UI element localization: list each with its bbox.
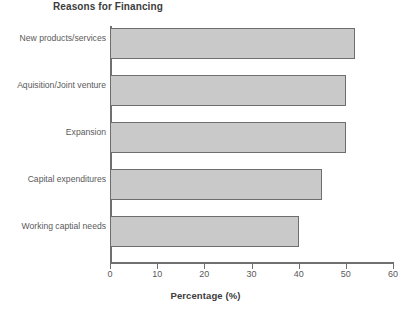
chart-title: Reasons for Financing (53, 1, 163, 12)
bar (110, 75, 346, 106)
category-label: Capital expenditures (2, 174, 106, 184)
x-tick-label: 50 (334, 269, 358, 279)
x-axis-title: Percentage (%) (0, 290, 411, 301)
x-tick-label: 0 (98, 269, 122, 279)
category-label: Aquisition/Joint venture (2, 80, 106, 90)
category-label: New products/services (2, 33, 106, 43)
bar-chart-figure: Reasons for Financing New products/servi… (0, 0, 411, 312)
bar (110, 122, 346, 153)
plot-area (110, 26, 393, 262)
x-tick-label: 10 (145, 269, 169, 279)
bar (110, 169, 322, 200)
x-tick-label: 20 (192, 269, 216, 279)
category-label: Working captial needs (2, 221, 106, 231)
x-tick-label: 60 (381, 269, 405, 279)
category-axis-labels: New products/services Aquisition/Joint v… (0, 26, 106, 262)
x-tick-label: 40 (287, 269, 311, 279)
bar (110, 216, 299, 247)
category-label: Expansion (2, 127, 106, 137)
x-tick-label: 30 (240, 269, 264, 279)
bar (110, 28, 355, 59)
